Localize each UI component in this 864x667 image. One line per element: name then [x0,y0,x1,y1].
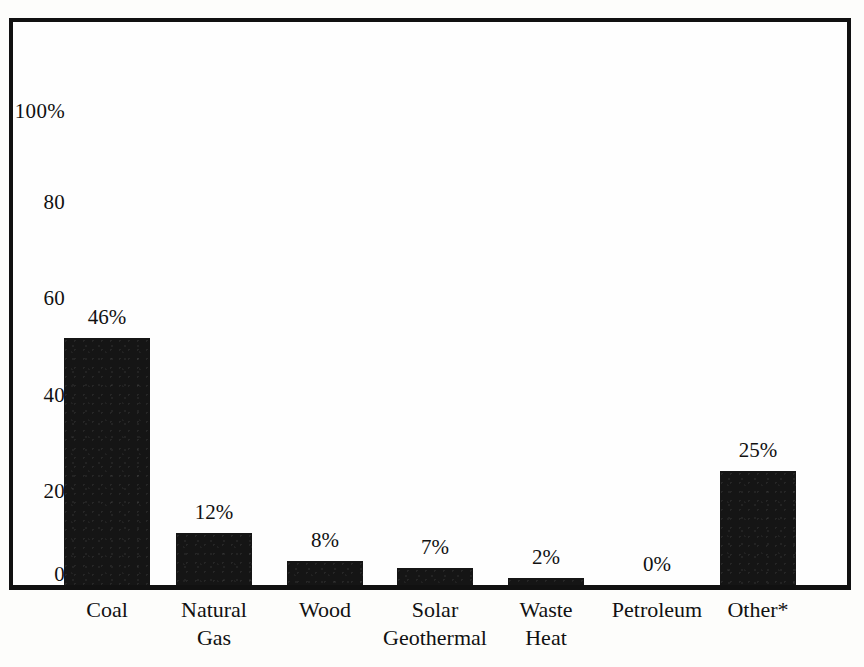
x-label-petroleum-line1: Petroleum [603,596,711,624]
bar-group-waste-heat[interactable]: 2% [508,0,584,667]
x-label-natural-gas-line1: Natural [176,596,252,624]
x-label-solar-geothermal-line1: Solar [382,596,488,624]
bar-value-waste-heat: 2% [532,547,560,568]
bar-value-petroleum: 0% [643,554,671,575]
x-label-wood-line1: Wood [287,596,363,624]
x-label-petroleum: Petroleum [603,596,711,624]
bar-waste-heat[interactable] [508,578,584,585]
x-label-other-line1: Other* [720,596,796,624]
x-label-solar-geothermal: Solar Geothermal [382,596,488,652]
bar-coal[interactable] [64,338,150,585]
x-label-other: Other* [720,596,796,624]
bar-value-wood: 8% [311,530,339,551]
x-label-wood: Wood [287,596,363,624]
bar-value-solar-geothermal: 7% [421,537,449,558]
bar-group-coal[interactable]: 46% [64,0,150,667]
bars-layer: 46% 12% 8% 7% 2% 0% 25% [0,0,864,667]
bar-natural-gas[interactable] [176,533,252,585]
x-label-waste-heat-line1: Waste [508,596,584,624]
bar-other[interactable] [720,471,796,585]
x-label-coal: Coal [64,596,150,624]
bar-group-wood[interactable]: 8% [287,0,363,667]
bar-group-petroleum[interactable]: 0% [619,0,695,667]
bar-group-solar-geothermal[interactable]: 7% [397,0,473,667]
bar-value-coal: 46% [88,307,127,328]
x-label-coal-line1: Coal [64,596,150,624]
x-axis: Coal Natural Gas Wood Solar Geothermal W… [0,596,864,667]
bar-group-natural-gas[interactable]: 12% [176,0,252,667]
bar-chart-figure: 100% 80 60 40 20 0 46% 12% 8% 7% 2% [0,0,864,667]
x-label-solar-geothermal-line2: Geothermal [382,624,488,652]
bar-wood[interactable] [287,561,363,585]
bar-solar-geothermal[interactable] [397,568,473,585]
x-label-natural-gas: Natural Gas [176,596,252,652]
x-label-waste-heat-line2: Heat [508,624,584,652]
x-label-waste-heat: Waste Heat [508,596,584,652]
bar-value-other: 25% [739,440,778,461]
bar-value-natural-gas: 12% [195,502,234,523]
x-label-natural-gas-line2: Gas [176,624,252,652]
bar-group-other[interactable]: 25% [720,0,796,667]
